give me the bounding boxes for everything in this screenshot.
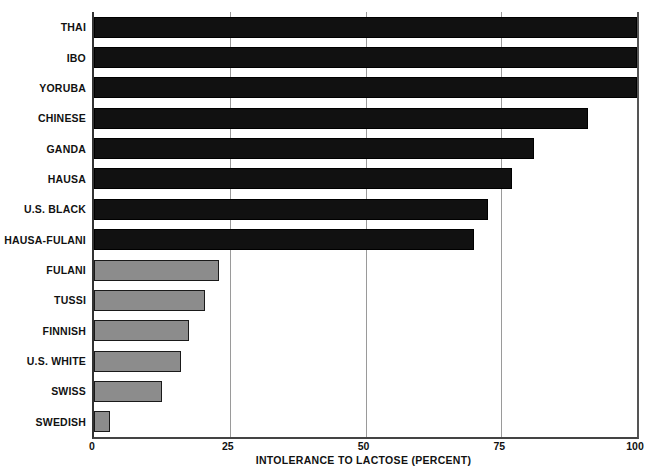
bar-ibo bbox=[94, 47, 637, 68]
plot-area bbox=[92, 12, 639, 439]
bar-tussi bbox=[94, 290, 205, 311]
x-axis-title: INTOLERANCE TO LACTOSE (PERCENT) bbox=[92, 454, 635, 466]
bar-yoruba bbox=[94, 77, 637, 98]
category-label-u-s-black: U.S. BLACK bbox=[0, 203, 86, 215]
bar-thai bbox=[94, 17, 637, 38]
bar-row bbox=[94, 411, 110, 432]
x-tick-label-0: 0 bbox=[89, 440, 95, 452]
bars-layer bbox=[94, 12, 637, 437]
bar-hausa bbox=[94, 168, 512, 189]
category-label-ganda: GANDA bbox=[0, 143, 86, 155]
bar-row bbox=[94, 138, 534, 159]
category-label-fulani: FULANI bbox=[0, 264, 86, 276]
bar-row bbox=[94, 77, 637, 98]
bar-row bbox=[94, 47, 637, 68]
lactose-intolerance-bar-chart: THAIIBOYORUBACHINESEGANDAHAUSAU.S. BLACK… bbox=[0, 0, 649, 473]
bar-fulani bbox=[94, 260, 219, 281]
x-tick-label-100: 100 bbox=[626, 440, 644, 452]
category-label-finnish: FINNISH bbox=[0, 325, 86, 337]
category-label-swiss: SWISS bbox=[0, 385, 86, 397]
category-label-ibo: IBO bbox=[0, 52, 86, 64]
bar-row bbox=[94, 17, 637, 38]
category-axis-labels: THAIIBOYORUBACHINESEGANDAHAUSAU.S. BLACK… bbox=[0, 12, 86, 437]
category-label-yoruba: YORUBA bbox=[0, 82, 86, 94]
bar-u-s-white bbox=[94, 351, 181, 372]
bar-row bbox=[94, 229, 474, 250]
bar-chinese bbox=[94, 108, 588, 129]
category-label-hausa: HAUSA bbox=[0, 173, 86, 185]
bar-row bbox=[94, 199, 488, 220]
bar-row bbox=[94, 168, 512, 189]
bar-hausa-fulani bbox=[94, 229, 474, 250]
bar-row bbox=[94, 290, 205, 311]
category-label-tussi: TUSSI bbox=[0, 294, 86, 306]
category-label-hausa-fulani: HAUSA-FULANI bbox=[0, 234, 86, 246]
category-label-thai: THAI bbox=[0, 21, 86, 33]
bar-row bbox=[94, 381, 162, 402]
bar-finnish bbox=[94, 320, 189, 341]
bar-row bbox=[94, 351, 181, 372]
category-label-swedish: SWEDISH bbox=[0, 416, 86, 428]
x-tick-label-50: 50 bbox=[358, 440, 370, 452]
bar-row bbox=[94, 320, 189, 341]
bar-u-s-black bbox=[94, 199, 488, 220]
bar-row bbox=[94, 108, 588, 129]
bar-ganda bbox=[94, 138, 534, 159]
bar-row bbox=[94, 260, 219, 281]
bar-swedish bbox=[94, 411, 110, 432]
category-label-u-s-white: U.S. WHITE bbox=[0, 355, 86, 367]
category-label-chinese: CHINESE bbox=[0, 112, 86, 124]
bar-swiss bbox=[94, 381, 162, 402]
x-tick-label-75: 75 bbox=[493, 440, 505, 452]
x-tick-label-25: 25 bbox=[222, 440, 234, 452]
value-axis-ticks: 0255075100 bbox=[92, 440, 635, 454]
